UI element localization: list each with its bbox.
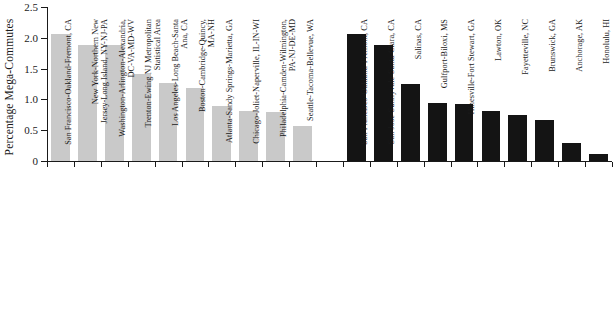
category-label: Honolulu, HI	[602, 19, 611, 169]
category-label: New York-Northern New Jersey-Long Island…	[91, 19, 109, 169]
category-label: Chicago-Joliet-Naperville, IL-IN-WI	[252, 19, 261, 169]
y-tick-label: 2.0	[0, 33, 38, 44]
category-label: Seattle-Tacoma-Bellevue, WA	[306, 19, 315, 169]
x-tick-mark	[316, 162, 317, 167]
x-tick-mark	[235, 162, 236, 167]
category-label: San Jose-Sunnyvale-Santa Clara, CA	[387, 19, 396, 169]
category-label: Trenton-Ewing NJ Metropolitan Statistica…	[144, 19, 162, 169]
x-tick-mark	[397, 162, 398, 167]
x-tick-mark	[47, 162, 48, 167]
y-tick-label: 1.5	[0, 64, 38, 75]
category-label: San Francisco-Oakland-Fremont, CA	[360, 19, 369, 169]
x-tick-mark	[612, 162, 613, 167]
x-tick-mark	[74, 162, 75, 167]
category-label: Los Angeles-Long Beach-Santa Ana, CA	[171, 19, 189, 169]
x-tick-mark	[585, 162, 586, 167]
category-label: Gulfport-Biloxi, MS	[440, 19, 449, 169]
x-tick-mark	[558, 162, 559, 167]
mega-commutes-bar-chart: Percentage Mega-Commutes 00.51.01.52.02.…	[0, 0, 615, 322]
y-tick-label: 2.5	[0, 2, 38, 13]
category-label: Philadelphia-Camden-Wilmington, PA-NJ-DE…	[279, 19, 297, 169]
category-label: Washington-Arlington-Alexandria, DC-VA-M…	[118, 19, 136, 169]
category-label: Atlanta-Sandy Springs-Marietta, GA	[225, 19, 234, 169]
y-tick-label: 0	[0, 156, 38, 167]
category-label: Brunswick, GA	[548, 19, 557, 169]
x-tick-mark	[451, 162, 452, 167]
category-label: Fayetteville, NC	[521, 19, 530, 169]
x-tick-mark	[262, 162, 263, 167]
category-label: Boston-Cambridge-Quincy, MA-NH	[198, 19, 216, 169]
x-tick-mark	[531, 162, 532, 167]
x-tick-mark	[343, 162, 344, 167]
category-label: Salinas, CA	[414, 19, 423, 169]
x-tick-mark	[424, 162, 425, 167]
category-label: Hinesville-Fort Stewart, GA	[467, 19, 476, 169]
x-tick-mark	[370, 162, 371, 167]
y-tick-label: 1.0	[0, 94, 38, 105]
x-tick-mark	[477, 162, 478, 167]
category-label: Lawton, OK	[494, 19, 503, 169]
y-tick-label: 0.5	[0, 125, 38, 136]
x-tick-mark	[504, 162, 505, 167]
category-label: San Francisco-Oakland-Fremont, CA	[64, 19, 73, 169]
y-axis-title: Percentage Mega-Commutes	[0, 2, 18, 172]
category-label: Anchorage, AK	[575, 19, 584, 169]
